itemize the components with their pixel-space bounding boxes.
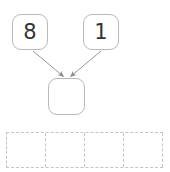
answer-grid-cell[interactable]: [85, 133, 124, 167]
answer-grid-cell[interactable]: [124, 133, 163, 167]
addend-right-value: 1: [94, 22, 107, 43]
answer-grid-cell[interactable]: [7, 133, 46, 167]
worksheet-canvas: 8 1: [0, 0, 170, 172]
arrow-left-to-sum: [33, 51, 64, 77]
answer-grid: [6, 132, 163, 168]
answer-grid-cell[interactable]: [46, 133, 85, 167]
addend-left-value: 8: [23, 22, 36, 43]
addend-left-box[interactable]: 8: [12, 14, 48, 50]
addend-right-box[interactable]: 1: [83, 14, 119, 50]
sum-answer-box[interactable]: [48, 78, 85, 115]
arrow-right-to-sum: [71, 51, 102, 77]
